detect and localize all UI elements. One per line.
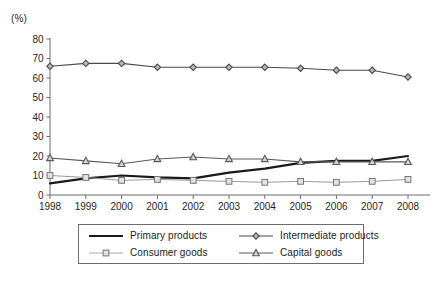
data-point-marker: [226, 178, 232, 184]
data-point-marker: [369, 178, 375, 184]
x-axis-tick-label: 2001: [146, 201, 169, 212]
data-point-marker: [118, 60, 124, 66]
data-point-marker: [333, 67, 339, 73]
data-point-marker: [190, 64, 196, 70]
y-axis-tick-label: 60: [32, 73, 44, 84]
data-point-marker: [262, 179, 268, 185]
legend-item-label: Consumer goods: [130, 247, 208, 258]
x-axis-tick-label: 2004: [254, 201, 277, 212]
y-axis-tick-label: 20: [32, 151, 44, 162]
y-axis-tick-label: 70: [32, 53, 44, 64]
x-axis-tick-label: 1999: [75, 201, 98, 212]
data-point-marker: [369, 67, 375, 73]
legend-item-capital-goods[interactable]: Capital goods: [229, 247, 365, 259]
data-point-marker: [47, 63, 53, 69]
data-point-marker: [405, 177, 411, 183]
data-point-marker: [262, 64, 268, 70]
x-axis-tick-label: 2005: [289, 201, 312, 212]
y-axis-tick-label: 80: [32, 34, 44, 45]
y-axis-tick-label: 10: [32, 170, 44, 181]
legend-item-label: Capital goods: [280, 247, 342, 258]
data-point-marker: [190, 177, 196, 183]
legend-triangle-icon: [237, 247, 275, 259]
x-axis-tick-label: 2000: [110, 201, 133, 212]
data-point-marker: [83, 60, 89, 66]
legend-item-label: Intermediate products: [280, 230, 379, 241]
x-axis-tick-label: 2007: [361, 201, 384, 212]
data-point-marker: [119, 177, 125, 183]
chart-legend: Primary productsIntermediate productsCon…: [78, 224, 364, 264]
data-point-marker: [47, 154, 54, 160]
legend-item-label: Primary products: [130, 230, 207, 241]
data-point-marker: [103, 250, 109, 256]
data-point-marker: [155, 177, 161, 183]
y-axis-tick-label: 30: [32, 131, 44, 142]
data-point-marker: [253, 232, 259, 238]
x-axis-tick-label: 2003: [218, 201, 241, 212]
legend-diamond-icon: [237, 230, 275, 242]
series-intermediate-products: [47, 60, 411, 80]
x-axis-tick-label: 1998: [39, 201, 62, 212]
x-axis-tick-label: 2008: [397, 201, 420, 212]
x-axis-tick-label: 2006: [325, 201, 348, 212]
data-point-marker: [297, 65, 303, 71]
legend-line-icon: [87, 230, 125, 242]
y-axis-tick-label: 40: [32, 112, 44, 123]
x-axis: 1998199920002001200220032004200520062007…: [39, 195, 430, 212]
legend-square-icon: [87, 247, 125, 259]
data-point-marker: [47, 173, 53, 179]
data-point-marker: [190, 153, 197, 159]
data-point-marker: [298, 178, 304, 184]
legend-item-consumer-goods[interactable]: Consumer goods: [79, 247, 229, 259]
series-consumer-goods: [47, 173, 411, 186]
data-point-marker: [405, 74, 411, 80]
y-axis-tick-label: 0: [38, 190, 44, 201]
legend-item-primary-products[interactable]: Primary products: [79, 230, 229, 242]
data-point-marker: [154, 64, 160, 70]
data-point-marker: [334, 179, 340, 185]
data-point-marker: [83, 175, 89, 181]
chart-figure: (%) 01020304050607080 199819992000200120…: [0, 0, 441, 281]
data-point-marker: [226, 64, 232, 70]
y-axis-tick-label: 50: [32, 92, 44, 103]
x-axis-tick-label: 2002: [182, 201, 205, 212]
data-series-group: [47, 60, 412, 185]
legend-item-intermediate-products[interactable]: Intermediate products: [229, 230, 365, 242]
